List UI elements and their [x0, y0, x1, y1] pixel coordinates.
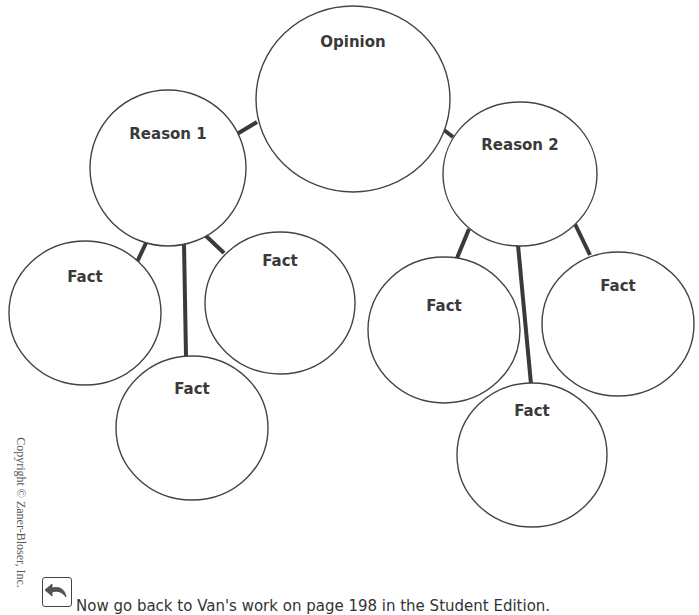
connector-reason2-r2-fact-left	[457, 229, 469, 258]
node-r1-fact-bottom[interactable]: Fact	[116, 356, 268, 500]
label-r2-fact-bottom: Fact	[514, 402, 550, 420]
circle-reason2[interactable]	[443, 102, 597, 246]
label-opinion: Opinion	[320, 33, 385, 51]
connector-opinion-reason1	[237, 122, 257, 134]
connector-reason1-r1-fact-left	[137, 241, 147, 262]
node-reason2[interactable]: Reason 2	[443, 102, 597, 246]
copyright-notice: Copyright © Zaner-Bloser, Inc.	[13, 413, 28, 613]
circle-reason1[interactable]	[90, 90, 246, 246]
node-r2-fact-right[interactable]: Fact	[542, 252, 694, 396]
node-r2-fact-bottom[interactable]: Fact	[457, 383, 607, 527]
return-arrow-icon	[42, 577, 72, 607]
label-reason2: Reason 2	[481, 136, 558, 154]
footer-instruction: Now go back to Van's work on page 198 in…	[42, 577, 550, 607]
connector-reason1-r1-fact-bottom	[184, 243, 186, 356]
circle-nodes: OpinionReason 1Reason 2FactFactFactFactF…	[9, 6, 694, 527]
instruction-text: Now go back to Van's work on page 198 in…	[76, 597, 550, 615]
circle-r2-fact-left[interactable]	[368, 257, 520, 403]
label-r1-fact-left: Fact	[67, 268, 103, 286]
circle-r1-fact-bottom[interactable]	[116, 356, 268, 500]
node-r1-fact-right[interactable]: Fact	[205, 232, 355, 374]
connector-reason2-r2-fact-bottom	[518, 245, 531, 384]
connector-opinion-reason2	[444, 130, 453, 137]
label-reason1: Reason 1	[129, 125, 206, 143]
label-r1-fact-bottom: Fact	[174, 380, 210, 398]
node-reason1[interactable]: Reason 1	[90, 90, 246, 246]
circle-r1-fact-left[interactable]	[9, 241, 161, 385]
label-r1-fact-right: Fact	[262, 252, 298, 270]
label-r2-fact-left: Fact	[426, 297, 462, 315]
label-r2-fact-right: Fact	[600, 277, 636, 295]
connector-reason1-r1-fact-right	[205, 235, 224, 253]
circle-r2-fact-right[interactable]	[542, 252, 694, 396]
node-opinion[interactable]: Opinion	[256, 6, 450, 192]
node-r2-fact-left[interactable]: Fact	[368, 257, 520, 403]
connector-reason2-r2-fact-right	[575, 224, 590, 255]
node-r1-fact-left[interactable]: Fact	[9, 241, 161, 385]
